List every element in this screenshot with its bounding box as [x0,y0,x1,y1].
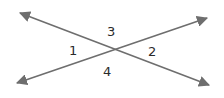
angle-1-label: 1 [69,43,77,58]
intersecting-lines-diagram: 1 2 3 4 [0,0,224,98]
angle-4-label: 4 [103,64,111,79]
angle-3-label: 3 [107,24,115,39]
angle-2-label: 2 [148,44,156,59]
diagram-canvas: 1 2 3 4 [0,0,224,98]
